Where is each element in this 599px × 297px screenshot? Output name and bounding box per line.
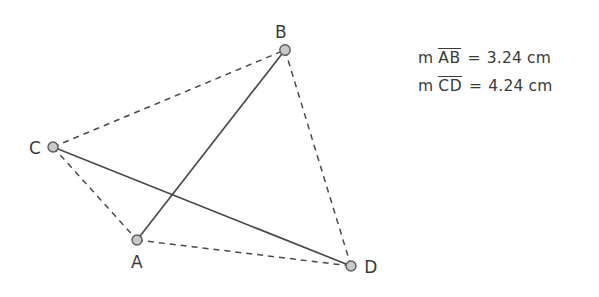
vertex-point-c[interactable] (48, 142, 58, 152)
measurement-row-cd[interactable]: mCD=4.24cm (418, 72, 588, 100)
vertex-label-group: A B C D (29, 22, 378, 277)
vertex-label-c: C (29, 138, 41, 158)
measure-prefix-cd: m (418, 77, 433, 95)
segment-ca[interactable] (53, 147, 137, 240)
segment-bd[interactable] (285, 50, 351, 266)
vertex-point-b[interactable] (280, 45, 290, 55)
segment-ab[interactable] (137, 50, 285, 240)
measure-unit-cd: cm (529, 77, 553, 95)
measure-unit-ab: cm (527, 49, 551, 67)
measurement-row-ab[interactable]: mAB=3.24cm (418, 44, 588, 72)
segment-cd[interactable] (53, 147, 351, 266)
measure-value-ab: 3.24 (487, 49, 522, 67)
vertex-point-d[interactable] (346, 261, 356, 271)
segment-cb[interactable] (53, 50, 285, 147)
measure-equals-cd: = (469, 77, 482, 95)
vertex-label-b: B (275, 22, 287, 42)
measure-prefix-ab: m (418, 49, 433, 67)
measure-equals-ab: = (468, 49, 481, 67)
vertex-label-a: A (131, 252, 143, 272)
vertex-point-a[interactable] (132, 235, 142, 245)
vertex-label-d: D (364, 257, 377, 277)
measure-value-cd: 4.24 (488, 77, 523, 95)
measure-segment-ab: AB (438, 48, 460, 66)
segment-group-solid (53, 50, 351, 266)
measurement-panel: mAB=3.24cm mCD=4.24cm (418, 44, 588, 100)
measure-segment-cd: CD (438, 76, 462, 94)
segment-group-dashed (53, 50, 351, 266)
diagram-canvas: A B C D mAB=3.24cm mCD=4.24cm (0, 0, 599, 297)
